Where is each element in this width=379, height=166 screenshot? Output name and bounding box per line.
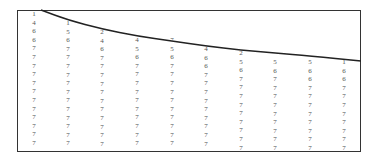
- grid-cell: 4: [27, 19, 41, 27]
- grid-cell: 7: [165, 122, 179, 130]
- grid-cell: 7: [234, 75, 248, 83]
- grid-cell: 7: [27, 79, 41, 87]
- grid-cell: 7: [130, 105, 144, 113]
- grid-cell: 7: [130, 79, 144, 87]
- grid-cell: 7: [234, 109, 248, 117]
- grid-cell: 7: [130, 88, 144, 96]
- grid-cell: 7: [61, 122, 75, 130]
- grid-cell: 7: [268, 75, 282, 83]
- grid-cell: 7: [130, 131, 144, 139]
- grid-cell: 7: [234, 126, 248, 134]
- grid-cell: 7: [303, 84, 317, 92]
- grid-cell: 5: [268, 58, 282, 66]
- grid-cell: 7: [268, 144, 282, 152]
- grid-cell: 7: [130, 70, 144, 78]
- grid-cell: 7: [95, 88, 109, 96]
- grid-cell: 7: [27, 96, 41, 104]
- grid-cell: 7: [95, 97, 109, 105]
- grid-cell: 7: [130, 96, 144, 104]
- grid-cell: 7: [61, 88, 75, 96]
- grid-cell: 7: [303, 135, 317, 143]
- grid-cell: 7: [61, 71, 75, 79]
- grid-cell: 7: [303, 92, 317, 100]
- grid-cell: 7: [130, 139, 144, 147]
- grid-cell: 7: [303, 127, 317, 135]
- grid-cell: 7: [337, 92, 351, 100]
- grid-cell: 7: [61, 53, 75, 61]
- grid-cell: 7: [337, 84, 351, 92]
- grid-cell: 7: [165, 96, 179, 104]
- grid-cell: 7: [268, 84, 282, 92]
- grid-cell: 7: [95, 105, 109, 113]
- grid-cell: 7: [27, 70, 41, 78]
- grid-cell: 6: [303, 67, 317, 75]
- grid-cell: 7: [165, 70, 179, 78]
- grid-cell: 7: [27, 53, 41, 61]
- grid-cell: 6: [61, 36, 75, 44]
- grid-cell: 7: [303, 144, 317, 152]
- grid-cell: 7: [27, 105, 41, 113]
- grid-cell: 7: [303, 101, 317, 109]
- grid-cell: 6: [268, 67, 282, 75]
- grid-cell: 5: [303, 58, 317, 66]
- grid-cell: 7: [199, 79, 213, 87]
- grid-cell: 1: [337, 58, 351, 66]
- grid-cell: 5: [165, 45, 179, 53]
- grid-cell: 6: [27, 36, 41, 44]
- grid-cell: 6: [27, 27, 41, 35]
- grid-cell: 6: [337, 67, 351, 75]
- grid-cell: 7: [268, 110, 282, 118]
- grid-cell: 7: [95, 140, 109, 148]
- grid-cell: 7: [337, 144, 351, 152]
- grid-cell: 6: [95, 45, 109, 53]
- grid-cell: 7: [130, 62, 144, 70]
- grid-cell: 5: [234, 58, 248, 66]
- grid-cell: 7: [165, 139, 179, 147]
- grid-cell: 7: [234, 101, 248, 109]
- grid-cell: 7: [61, 139, 75, 147]
- grid-cell: 7: [130, 113, 144, 121]
- grid-cell: 7: [337, 127, 351, 135]
- grid-cell: 7: [61, 105, 75, 113]
- grid-cell: 7: [165, 62, 179, 70]
- grid-cell: 7: [61, 62, 75, 70]
- grid-cell: 7: [95, 123, 109, 131]
- grid-cell: 7: [268, 135, 282, 143]
- grid-cell: 4: [95, 37, 109, 45]
- grid-cell: 7: [95, 62, 109, 70]
- grid-cell: 6: [303, 75, 317, 83]
- grid-cell: 7: [303, 118, 317, 126]
- grid-cell: 7: [199, 71, 213, 79]
- grid-cell: 1: [61, 19, 75, 27]
- grid-cell: 7: [165, 88, 179, 96]
- grid-cell: 7: [165, 113, 179, 121]
- grid-cell: 7: [27, 130, 41, 138]
- grid-cell: 7: [199, 97, 213, 105]
- grid-cell: 6: [130, 53, 144, 61]
- grid-cell: 7: [61, 114, 75, 122]
- grid-cell: 7: [61, 131, 75, 139]
- grid-cell: 6: [199, 62, 213, 70]
- grid-cell: 6: [234, 66, 248, 74]
- grid-cell: 5: [61, 28, 75, 36]
- grid-cell: 7: [165, 105, 179, 113]
- grid-cell: 7: [199, 114, 213, 122]
- grid-cell: 7: [95, 131, 109, 139]
- grid-cell: 7: [268, 101, 282, 109]
- grid-cell: 5: [130, 45, 144, 53]
- grid-cell: 7: [199, 105, 213, 113]
- grid-cell: 7: [268, 118, 282, 126]
- grid-cell: 7: [303, 110, 317, 118]
- grid-cell: 7: [27, 62, 41, 70]
- grid-cell: 7: [234, 118, 248, 126]
- grid-cell: 7: [130, 122, 144, 130]
- grid-cell: 7: [95, 71, 109, 79]
- grid-cell: 7: [337, 101, 351, 109]
- grid-cell: 7: [165, 131, 179, 139]
- grid-cell: 7: [27, 113, 41, 121]
- grid-cell: 7: [234, 144, 248, 152]
- grid-cell: 7: [268, 92, 282, 100]
- grid-cell: 7: [27, 87, 41, 95]
- grid-cell: 7: [61, 45, 75, 53]
- grid-cell: 7: [95, 114, 109, 122]
